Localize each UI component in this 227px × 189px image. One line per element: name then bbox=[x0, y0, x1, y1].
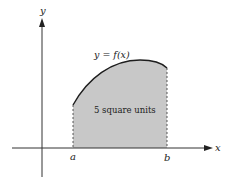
shaded-area bbox=[73, 60, 167, 148]
curve-label: y = f(x) bbox=[93, 49, 130, 60]
bound-b-label: b bbox=[164, 152, 170, 163]
y-axis-arrow-icon bbox=[39, 18, 45, 27]
x-axis-label: x bbox=[215, 142, 221, 153]
area-under-curve-diagram: y x a b y = f(x) 5 square units bbox=[0, 0, 227, 189]
y-axis-label: y bbox=[39, 5, 46, 16]
bound-a-label: a bbox=[70, 151, 76, 162]
x-axis-arrow-icon bbox=[204, 145, 213, 151]
area-label: 5 square units bbox=[94, 105, 156, 115]
